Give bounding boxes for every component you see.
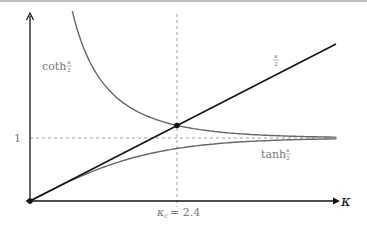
- coth-frac-num: κ: [67, 59, 71, 65]
- coth-label: coth: [42, 60, 66, 73]
- intersection-point: [174, 123, 180, 129]
- half-kappa-line: [30, 44, 336, 201]
- tanh-frac-den: 2: [286, 155, 290, 161]
- coth-frac-den: 2: [67, 67, 71, 73]
- chart: coth κ 2 κ 2 tanh κ 2 1 κ c = 2.4 κ: [0, 0, 367, 228]
- tanh-frac-num: κ: [286, 147, 290, 153]
- kappa-c-subscript: c: [164, 212, 168, 220]
- x-axis-label: κ: [340, 192, 351, 210]
- kappa-c-value: = 2.4: [170, 206, 200, 219]
- x-axis-arrow-icon: [333, 198, 340, 205]
- tanh-curve: [30, 139, 336, 201]
- origin-point: [27, 198, 33, 204]
- tanh-label: tanh: [261, 148, 286, 161]
- line-frac-num: κ: [274, 53, 278, 59]
- coth-curve: [72, 11, 336, 137]
- line-frac-den: 2: [274, 61, 278, 67]
- y-tick-one: 1: [14, 132, 21, 145]
